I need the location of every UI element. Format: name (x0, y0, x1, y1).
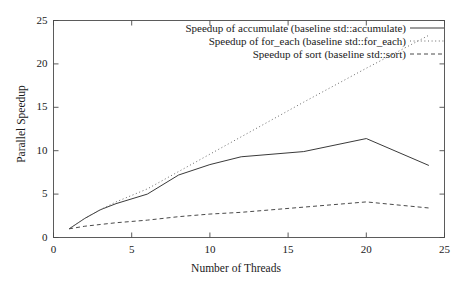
x-tick-label: 25 (430, 244, 460, 255)
y-axis-title: Parallel Speedup (15, 59, 27, 189)
legend-key-for-each (410, 36, 444, 46)
legend-label-for-each: Speedup of for_each (baseline std::for_e… (209, 35, 406, 47)
x-tick-label: 15 (273, 244, 303, 255)
x-tick-label: 5 (117, 244, 147, 255)
series-line (69, 139, 429, 229)
x-tick-label: 10 (195, 244, 225, 255)
series-lines (69, 35, 429, 229)
y-tick-label: 0 (18, 232, 48, 243)
legend-key-sort (410, 49, 444, 59)
y-tick-label: 5 (18, 188, 48, 199)
legend-key-accumulate (410, 23, 444, 33)
x-tick-label: 0 (39, 244, 69, 255)
chart-legend: Speedup of accumulate (baseline std::acc… (176, 22, 444, 61)
x-axis-title: Number of Threads (0, 262, 472, 274)
legend-entry-for-each: Speedup of for_each (baseline std::for_e… (176, 35, 444, 47)
legend-entry-accumulate: Speedup of accumulate (baseline std::acc… (176, 22, 444, 34)
x-tick-label: 20 (351, 244, 381, 255)
y-tick-label: 25 (18, 15, 48, 26)
speedup-line-chart: 0510152025 0510152025 Parallel Speedup N… (0, 0, 472, 287)
series-line (69, 202, 429, 229)
legend-label-accumulate: Speedup of accumulate (baseline std::acc… (185, 22, 406, 34)
legend-entry-sort: Speedup of sort (baseline std::sort) (176, 48, 444, 60)
legend-label-sort: Speedup of sort (baseline std::sort) (253, 48, 406, 60)
series-line (69, 35, 429, 229)
